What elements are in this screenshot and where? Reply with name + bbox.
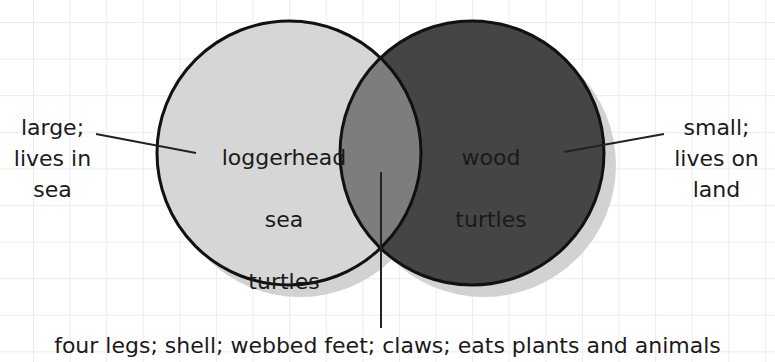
right-set-label-line-2: turtles bbox=[411, 204, 571, 235]
left-set-label-line-2: sea bbox=[184, 204, 384, 235]
right-callout: small; lives on land bbox=[664, 112, 769, 205]
left-set-label: loggerhead sea turtles bbox=[184, 111, 384, 328]
left-set-label-line-1: loggerhead bbox=[184, 142, 384, 173]
left-callout: large; lives in sea bbox=[0, 112, 105, 205]
venn-diagram bbox=[0, 0, 775, 362]
right-set-label: wood turtles bbox=[411, 111, 571, 266]
right-set-label-line-1: wood bbox=[411, 142, 571, 173]
bottom-callout: four legs; shell; webbed feet; claws; ea… bbox=[0, 330, 775, 361]
left-set-label-line-3: turtles bbox=[184, 266, 384, 297]
